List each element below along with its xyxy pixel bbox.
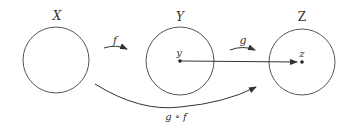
arrow-g-curve — [230, 48, 255, 51]
arrow-y-to-z — [181, 61, 297, 62]
set-x: X — [23, 9, 89, 93]
set-z: Z z — [269, 10, 335, 95]
arrow-g-of-f-label: g ∘ f — [165, 111, 189, 122]
arrow-g: g — [230, 34, 255, 50]
set-y: Y y — [146, 10, 214, 95]
arrow-g-of-f: g ∘ f — [95, 84, 256, 122]
set-x-label: X — [52, 9, 62, 23]
arrow-g-of-f-curve — [95, 84, 256, 108]
composition-diagram: X Y y Z z f g g ∘ f — [0, 0, 355, 129]
point-y-label: y — [175, 47, 182, 58]
arrow-g-label: g — [239, 34, 246, 47]
set-y-label: Y — [176, 10, 185, 24]
set-x-circle — [23, 27, 89, 93]
arrow-f-curve — [104, 46, 127, 49]
arrow-f: f — [104, 34, 127, 49]
arrow-f-label: f — [112, 34, 119, 47]
point-z-label: z — [298, 48, 305, 59]
set-z-label: Z — [298, 10, 306, 24]
point-z — [300, 60, 304, 64]
